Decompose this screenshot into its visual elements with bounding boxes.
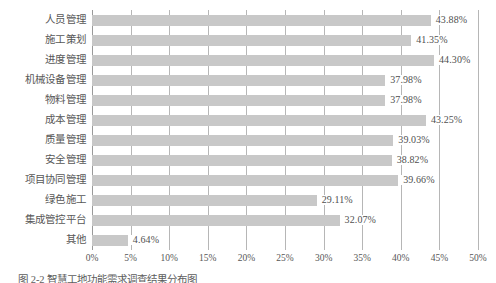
value-tick-label: 5% — [124, 254, 137, 264]
value-tick-label: 20% — [238, 254, 255, 264]
value-tick-label: 50% — [469, 254, 486, 264]
bar — [92, 175, 398, 186]
category-label: 质量管理 — [0, 130, 92, 150]
bar-value-label: 4.64% — [128, 235, 159, 245]
category-label: 成本管理 — [0, 110, 92, 130]
chart-figure: 人员管理施工策划进度管理机械设备管理物料管理成本管理质量管理安全管理项目协同管理… — [0, 0, 496, 283]
gridline — [478, 10, 479, 250]
bar-row: 43.25% — [92, 110, 478, 130]
category-label: 绿色施工 — [0, 190, 92, 210]
bar-row: 38.82% — [92, 150, 478, 170]
category-label: 人员管理 — [0, 10, 92, 30]
category-label: 集成管控平台 — [0, 210, 92, 230]
bar-row: 37.98% — [92, 70, 478, 90]
value-tick-label: 35% — [353, 254, 370, 264]
value-tick-label: 10% — [160, 254, 177, 264]
value-tick-label: 45% — [431, 254, 448, 264]
bar — [92, 195, 317, 206]
bar — [92, 135, 393, 146]
bar — [92, 115, 426, 126]
value-axis: 0%5%10%15%20%25%30%35%40%45%50% — [92, 252, 478, 268]
category-label: 进度管理 — [0, 50, 92, 70]
bar-row: 32.07% — [92, 210, 478, 230]
bar-row: 39.66% — [92, 170, 478, 190]
bar — [92, 235, 128, 246]
category-label: 机械设备管理 — [0, 70, 92, 90]
bar — [92, 95, 385, 106]
bar-row: 44.30% — [92, 50, 478, 70]
bar-value-label: 41.35% — [411, 35, 447, 45]
category-label: 安全管理 — [0, 150, 92, 170]
bar-row: 39.03% — [92, 130, 478, 150]
category-label: 物料管理 — [0, 90, 92, 110]
bar — [92, 15, 431, 26]
bar-value-label: 37.98% — [385, 75, 421, 85]
bar-value-label: 43.25% — [426, 115, 462, 125]
bar-row: 37.98% — [92, 90, 478, 110]
value-tick-label: 15% — [199, 254, 216, 264]
value-tick-label: 40% — [392, 254, 409, 264]
plot-area: 43.88%41.35%44.30%37.98%37.98%43.25%39.0… — [92, 10, 478, 250]
bar — [92, 35, 411, 46]
bar — [92, 215, 340, 226]
bar — [92, 75, 385, 86]
bar — [92, 155, 392, 166]
bar-value-label: 39.66% — [398, 175, 434, 185]
category-axis: 人员管理施工策划进度管理机械设备管理物料管理成本管理质量管理安全管理项目协同管理… — [0, 10, 92, 250]
bar-row: 41.35% — [92, 30, 478, 50]
category-label: 其他 — [0, 230, 92, 250]
bar-row: 43.88% — [92, 10, 478, 30]
bar-series: 43.88%41.35%44.30%37.98%37.98%43.25%39.0… — [92, 10, 478, 250]
value-tick-label: 25% — [276, 254, 293, 264]
bar — [92, 55, 434, 66]
bar-row: 4.64% — [92, 230, 478, 250]
bar-value-label: 39.03% — [393, 135, 429, 145]
category-label: 施工策划 — [0, 30, 92, 50]
category-label: 项目协同管理 — [0, 170, 92, 190]
bar-value-label: 32.07% — [340, 215, 376, 225]
bar-value-label: 37.98% — [385, 95, 421, 105]
bar-value-label: 43.88% — [431, 15, 467, 25]
bar-value-label: 29.11% — [317, 195, 353, 205]
bar-value-label: 44.30% — [434, 55, 470, 65]
chart-plot-wrapper: 人员管理施工策划进度管理机械设备管理物料管理成本管理质量管理安全管理项目协同管理… — [0, 0, 496, 252]
value-tick-label: 0% — [86, 254, 99, 264]
value-tick-label: 30% — [315, 254, 332, 264]
bar-row: 29.11% — [92, 190, 478, 210]
bar-value-label: 38.82% — [392, 155, 428, 165]
figure-caption: 图 2-2 智慧工地功能需求调查结果分布图 — [18, 273, 488, 283]
